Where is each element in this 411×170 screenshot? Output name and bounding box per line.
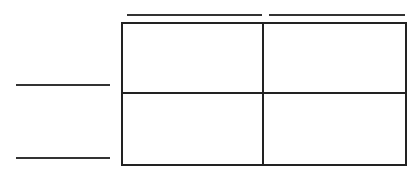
grid-cell-top-left[interactable]	[123, 24, 264, 94]
grid-cell-bottom-left[interactable]	[123, 94, 264, 164]
top-allele-blank-2[interactable]	[269, 14, 405, 16]
cell-text	[264, 94, 405, 120]
left-allele-blank-2[interactable]	[16, 157, 110, 159]
punnett-grid	[121, 22, 407, 166]
top-allele-blank-1[interactable]	[127, 14, 262, 16]
grid-cell-top-right[interactable]	[264, 24, 405, 94]
grid-cell-bottom-right[interactable]	[264, 94, 405, 164]
left-allele-blank-1[interactable]	[16, 84, 110, 86]
cell-text	[123, 94, 262, 120]
cell-text	[264, 24, 405, 50]
cell-text	[123, 24, 262, 50]
